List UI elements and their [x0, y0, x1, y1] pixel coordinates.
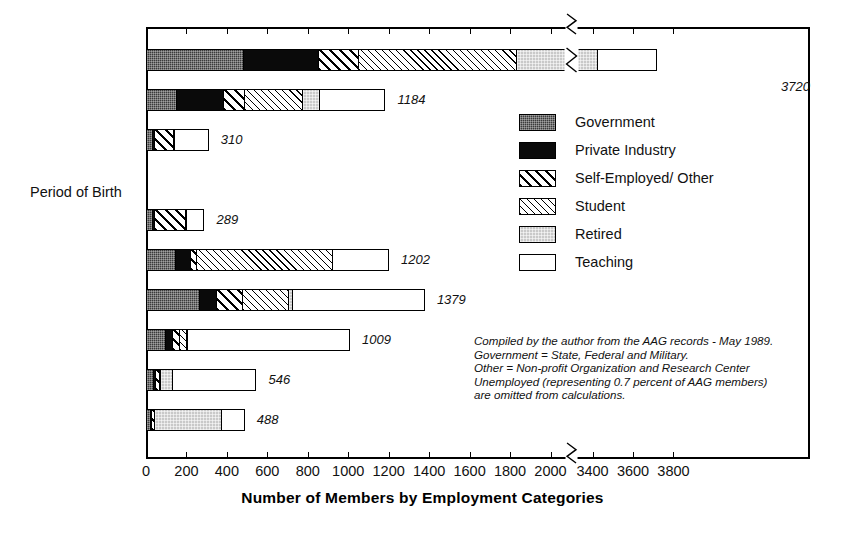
x-tick-label: 1800 — [494, 463, 526, 479]
x-tick-label: 2000 — [534, 463, 566, 479]
bar-segment-retired — [154, 409, 221, 431]
tick-bottom — [510, 452, 511, 459]
x-tick-label: 0 — [142, 463, 150, 479]
bar-segment-government — [146, 89, 176, 111]
bar-row: 289 — [0, 209, 845, 231]
x-tick-label: 3800 — [657, 463, 689, 479]
chart-figure: 37201184310289120213791009546488 MalesFe… — [0, 0, 845, 537]
bar-segment-retired — [516, 49, 597, 71]
bar-segment-student — [242, 289, 288, 311]
footnote-line-4: Unemployed (representing 0.7 percent of … — [474, 375, 773, 389]
legend-swatch-government — [519, 114, 556, 131]
legend-swatch-student — [519, 198, 556, 215]
legend-label-student: Student — [575, 198, 625, 214]
bar-segment-teaching — [221, 409, 245, 431]
tick-top — [429, 27, 430, 34]
bar-segment-teaching — [332, 249, 389, 271]
tick-top — [673, 27, 674, 34]
tick-top — [146, 27, 147, 34]
tick-bottom — [673, 452, 674, 459]
bar-segment-student — [179, 329, 186, 351]
bar-segment-government — [146, 329, 165, 351]
bar-segment-retired — [302, 89, 319, 111]
period-of-birth-header: Period of Birth — [30, 184, 122, 200]
bar-total-label: 1379 — [437, 292, 466, 307]
tick-bottom — [429, 452, 430, 459]
bar-segment-private-industry — [199, 289, 216, 311]
x-tick-label: 3400 — [576, 463, 608, 479]
tick-bottom — [186, 452, 187, 459]
bar-segment-private-industry — [243, 49, 318, 71]
bar-segment-government — [146, 249, 175, 271]
x-tick-label: 400 — [215, 463, 239, 479]
bar-total-label: 310 — [221, 132, 243, 147]
tick-top — [470, 27, 471, 34]
bar-segment-self-employed-other — [154, 209, 185, 231]
tick-top — [308, 27, 309, 34]
legend: GovernmentPrivate IndustrySelf-Employed/… — [519, 108, 714, 276]
tick-bottom — [348, 452, 349, 459]
bar-segment-teaching — [172, 369, 257, 391]
tick-bottom — [593, 452, 594, 459]
legend-item-private: Private Industry — [519, 136, 714, 164]
bar-segment-private-industry — [165, 329, 172, 351]
bar-segment-teaching — [292, 289, 425, 311]
tick-bottom — [551, 452, 552, 459]
footnote-line-2: Government = State, Federal and Military… — [474, 348, 773, 362]
legend-swatch-private — [519, 142, 556, 159]
x-tick-label: 1200 — [373, 463, 405, 479]
tick-top — [186, 27, 187, 34]
bar-total-label: 546 — [268, 372, 290, 387]
tick-bottom — [267, 452, 268, 459]
legend-label-retired: Retired — [575, 226, 622, 242]
x-tick-label: 1000 — [332, 463, 364, 479]
bar-segment-self-employed-other — [318, 49, 358, 71]
bar-row: 310 — [0, 129, 845, 151]
x-tick-label: 200 — [174, 463, 198, 479]
tick-top — [227, 27, 228, 34]
tick-top — [510, 27, 511, 34]
bar-segment-student — [244, 89, 302, 111]
footnote-block: Compiled by the author from the AAG reco… — [474, 334, 773, 402]
x-tick-label: 1400 — [413, 463, 445, 479]
legend-item-teaching: Teaching — [519, 248, 714, 276]
legend-item-government: Government — [519, 108, 714, 136]
bar-total-label: 1184 — [397, 92, 425, 107]
bar-segment-self-employed-other — [223, 89, 244, 111]
bar-segment-self-employed-other — [216, 289, 242, 311]
tick-top — [633, 27, 634, 34]
bar-row: 1202 — [0, 249, 845, 271]
tick-top — [551, 27, 552, 34]
x-axis-title: Number of Members by Employment Categori… — [0, 489, 845, 507]
tick-top — [593, 27, 594, 34]
legend-label-self: Self-Employed/ Other — [575, 170, 714, 186]
bar-segment-self-employed-other — [172, 329, 179, 351]
bar-segment-teaching — [319, 89, 386, 111]
x-tick-label: 600 — [255, 463, 279, 479]
bar-segment-teaching — [174, 129, 208, 151]
legend-item-retired: Retired — [519, 220, 714, 248]
bar-segment-government — [146, 49, 243, 71]
legend-swatch-retired — [519, 226, 556, 243]
x-tick-label: 800 — [296, 463, 320, 479]
footnote-line-1: Compiled by the author from the AAG reco… — [474, 334, 773, 348]
bar-segment-government — [146, 289, 199, 311]
footnote-line-5: are omitted from calculations. — [474, 388, 773, 402]
bar-total-label: 1202 — [401, 252, 430, 267]
legend-label-private: Private Industry — [575, 142, 676, 158]
tick-top — [348, 27, 349, 34]
bar-total-label: 488 — [257, 412, 279, 427]
bar-segment-teaching — [187, 329, 350, 351]
bar-segment-student — [196, 249, 333, 271]
tick-bottom — [146, 452, 147, 459]
x-tick-label: 3600 — [617, 463, 649, 479]
legend-item-self: Self-Employed/ Other — [519, 164, 714, 192]
bar-segment-teaching — [597, 49, 658, 71]
bar-segment-teaching — [186, 209, 204, 231]
legend-item-student: Student — [519, 192, 714, 220]
bar-row: 1184 — [0, 89, 845, 111]
x-tick-label: 1600 — [453, 463, 485, 479]
bar-segment-self-employed-other — [154, 129, 173, 151]
bar-segment-student — [358, 49, 515, 71]
footnote-line-3: Other = Non-profit Organization and Rese… — [474, 361, 773, 375]
